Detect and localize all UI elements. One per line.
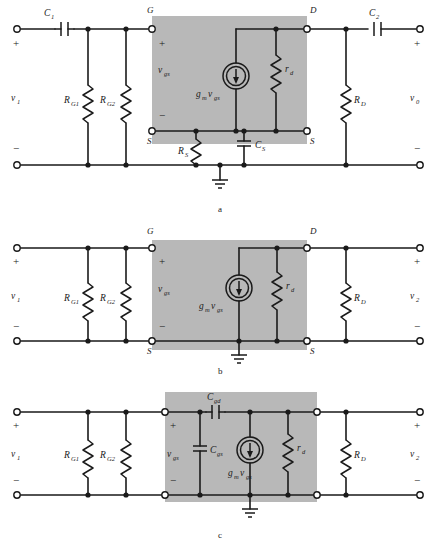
- panel-a-rd-zigzag: [341, 85, 351, 123]
- panel-c-output-voltage-label: v: [410, 449, 415, 459]
- panel-a-drain-terminal: [304, 26, 310, 32]
- panel-b-fet-model-shading: [152, 240, 307, 350]
- panel-b-output-voltage-label: v: [410, 291, 415, 301]
- panel-c-gate-terminal: [162, 409, 168, 415]
- panel-b-rg1-label-sub: G1: [71, 298, 79, 305]
- panel-a-vgs-plus-sign: +: [159, 37, 165, 49]
- panel-c-vgs-plus-sign: +: [170, 419, 176, 431]
- panel-a-junction-dot: [241, 162, 246, 167]
- panel-c-rg1-zigzag: [83, 440, 93, 478]
- panel-a-junction-dot: [343, 162, 348, 167]
- panel-c-junction-dot: [247, 409, 252, 414]
- panel-a-junction-dot: [123, 162, 128, 167]
- panel-c-current-source-label-gm-sub: m: [234, 473, 239, 480]
- panel-a-cs-label-sub: S: [262, 145, 266, 152]
- panel-b-caption: b: [218, 366, 223, 376]
- panel-b-gate-node-label: G: [147, 226, 154, 236]
- panel-c-rd-label-sub: D: [360, 455, 366, 462]
- panel-c-current-source-label-gm: g: [228, 468, 233, 478]
- panel-c-cgs-label: C: [210, 445, 217, 455]
- panel-b-input-minus-sign: −: [13, 320, 19, 332]
- panel-b-input-voltage-label-sub: 1: [17, 296, 20, 303]
- panel-a-current-source-label-gm: g: [196, 89, 201, 99]
- panel-a-junction-dot: [193, 128, 198, 133]
- panel-c-junction-dot: [285, 492, 290, 497]
- panel-c-rd-label: R: [353, 450, 360, 460]
- panel-a-rg2-label: R: [99, 95, 106, 105]
- panel-a-rs-label-sub: S: [185, 151, 189, 158]
- panel-c-output-minus-sign: −: [414, 474, 420, 486]
- panel-a-junction-dot: [233, 128, 238, 133]
- panel-a-input-voltage-label: v: [11, 93, 16, 103]
- panel-a-junction-dot: [343, 26, 348, 31]
- panel-b-drain-node-label: D: [309, 226, 317, 236]
- panel-c-cgd-label-sub: gd: [214, 397, 221, 404]
- panel-c-input-voltage-label: v: [11, 449, 16, 459]
- panel-c-output-terminal-negative: [417, 492, 423, 498]
- panel-c-source-terminal-left: [162, 492, 168, 498]
- panel-c-rd-zigzag: [341, 440, 351, 478]
- panel-a-rd-small-label: r: [285, 64, 289, 74]
- panel-b-rd-small-label: r: [286, 281, 290, 291]
- panel-b-rg2-zigzag: [121, 283, 131, 321]
- panel-a-rs-label: R: [177, 146, 184, 156]
- panel-b-junction-dot: [123, 245, 128, 250]
- panel-b-junction-dot: [85, 338, 90, 343]
- panel-b-input-terminal-positive: [14, 245, 20, 251]
- panel-b-output-minus-sign: −: [414, 320, 420, 332]
- panel-b-current-source-label-gm-sub: m: [205, 306, 210, 313]
- panel-b-drain-terminal: [304, 245, 310, 251]
- panel-b-vgs-label-sub: gs: [164, 289, 170, 296]
- panel-b-source-terminal-right: [304, 338, 310, 344]
- panel-c-rg2-label-sub: G2: [107, 455, 116, 462]
- panel-a-rd-label: R: [353, 95, 360, 105]
- panel-c-cgs-label-sub: gs: [217, 450, 223, 457]
- panel-a-source-terminal-left: [149, 128, 155, 134]
- panel-c-current-source-label-v-sub: gs: [246, 473, 252, 480]
- panel-a-input-voltage-label-sub: 1: [17, 98, 20, 105]
- panel-a-input-terminal-negative: [14, 162, 20, 168]
- panel-b-vgs-plus-sign: +: [159, 255, 165, 267]
- panel-b-source-node-label-right: S: [310, 346, 315, 356]
- panel-a-rg2-zigzag: [121, 85, 131, 123]
- panel-b-junction-dot: [274, 338, 279, 343]
- circuit-diagram: C 1 C 2 + − v 1 + − v 0 R G1 R G2 G D S …: [0, 0, 437, 550]
- panel-a-output-voltage-label: v: [410, 93, 415, 103]
- panel-c-junction-dot: [123, 409, 128, 414]
- panel-a-gate-node-label: G: [147, 5, 154, 15]
- panel-c-cgd-label: C: [207, 392, 214, 402]
- panel-a-junction-dot: [241, 128, 246, 133]
- panel-b-junction-dot: [343, 338, 348, 343]
- panel-c-junction-dot: [285, 409, 290, 414]
- panel-c-junction-dot: [197, 492, 202, 497]
- panel-a-output-minus-sign: −: [414, 142, 420, 154]
- panel-b-junction-dot: [274, 245, 279, 250]
- panel-a-rg1-label-sub: G1: [71, 100, 79, 107]
- panel-a-vgs-label-sub: gs: [164, 70, 170, 77]
- panel-c-rg1-label: R: [63, 450, 70, 460]
- panel-b-output-terminal-positive: [417, 245, 423, 251]
- panel-a-c1-label-sub: 1: [51, 13, 54, 20]
- panel-c-input-terminal-positive: [14, 409, 20, 415]
- panel-b-input-plus-sign: +: [13, 255, 19, 267]
- panel-b-rd-label-sub: D: [360, 298, 366, 305]
- panel-c-junction-dot: [85, 492, 90, 497]
- panel-b-source-terminal-left: [149, 338, 155, 344]
- panel-b-current-source-label-v-sub: gs: [217, 306, 223, 313]
- panel-a-input-terminal-positive: [14, 26, 20, 32]
- panel-c-input-voltage-label-sub: 1: [17, 454, 20, 461]
- panel-a-source-terminal-right: [304, 128, 310, 134]
- panel-b-input-terminal-negative: [14, 338, 20, 344]
- panel-b-input-voltage-label: v: [11, 291, 16, 301]
- panel-c-caption: c: [218, 530, 222, 540]
- panel-b-output-terminal-negative: [417, 338, 423, 344]
- panel-c-junction-dot: [123, 492, 128, 497]
- panel-a-input-plus-sign: +: [13, 37, 19, 49]
- figure-root: C 1 C 2 + − v 1 + − v 0 R G1 R G2 G D S …: [0, 0, 437, 550]
- panel-a-output-voltage-label-sub: 0: [416, 98, 420, 105]
- panel-b-vgs-minus-sign: −: [159, 320, 165, 332]
- panel-a-source-node-label-left: S: [147, 136, 152, 146]
- panel-a-rg2-label-sub: G2: [107, 100, 116, 107]
- panel-b-source-node-label-left: S: [147, 346, 152, 356]
- panel-b-gate-terminal: [149, 245, 155, 251]
